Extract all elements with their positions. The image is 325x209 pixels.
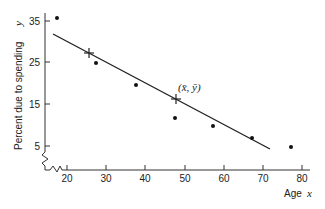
data-point (289, 145, 293, 149)
x-tick-label: 50 (179, 173, 191, 184)
cross-marker (84, 48, 94, 58)
x-tick-label: 20 (61, 173, 73, 184)
y-tick-label: 15 (29, 99, 41, 110)
mean-cross-marker (171, 94, 181, 104)
x-tick-label: 70 (257, 173, 269, 184)
data-point (94, 61, 98, 65)
scatter-chart: 35 25 15 5 20 30 40 50 60 70 80 Age x Pe… (0, 0, 325, 209)
y-axis-title: Percent due to spending y (12, 21, 24, 150)
x-axis-title: Age x (284, 187, 312, 199)
mean-point-annotation: (x̄, ȳ) (178, 81, 201, 94)
y-tick-label: 25 (29, 57, 41, 68)
x-tick-label: 30 (100, 173, 112, 184)
x-axis (45, 166, 310, 172)
y-tick-label: 5 (34, 141, 40, 152)
data-point (55, 16, 59, 20)
data-point (134, 83, 138, 87)
x-tick-label: 40 (139, 173, 151, 184)
x-tick-label: 60 (218, 173, 230, 184)
regression-line (53, 34, 270, 149)
data-point (173, 116, 177, 120)
data-points (55, 16, 293, 149)
y-ticks (45, 21, 50, 146)
x-axis-variable: x (306, 187, 312, 199)
x-ticks (67, 165, 302, 170)
y-tick-labels: 35 25 15 5 (29, 16, 41, 152)
x-tick-label: 80 (296, 173, 308, 184)
y-axis-variable: y (12, 21, 24, 27)
y-tick-label: 35 (29, 16, 41, 27)
x-axis-label: Age (284, 188, 302, 199)
data-point (211, 124, 215, 128)
x-tick-labels: 20 30 40 50 60 70 80 (61, 173, 308, 184)
y-axis-label: Percent due to spending (13, 42, 24, 150)
data-point (250, 136, 254, 140)
